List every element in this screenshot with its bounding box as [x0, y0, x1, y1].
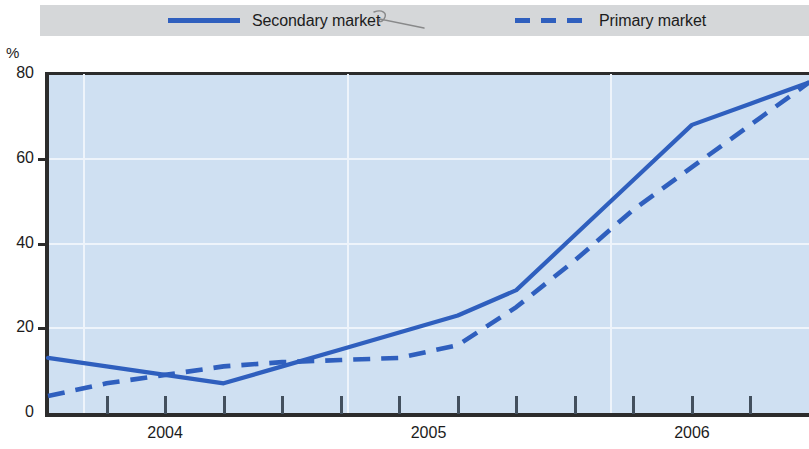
chart-figure: Secondary market Primary market % 020406… — [0, 0, 809, 449]
data-series-layer — [0, 0, 809, 449]
plot-container: % 020406080 200420052006 — [0, 0, 809, 449]
series-line-primary-market — [48, 82, 809, 396]
series-line-secondary-market — [48, 82, 809, 383]
